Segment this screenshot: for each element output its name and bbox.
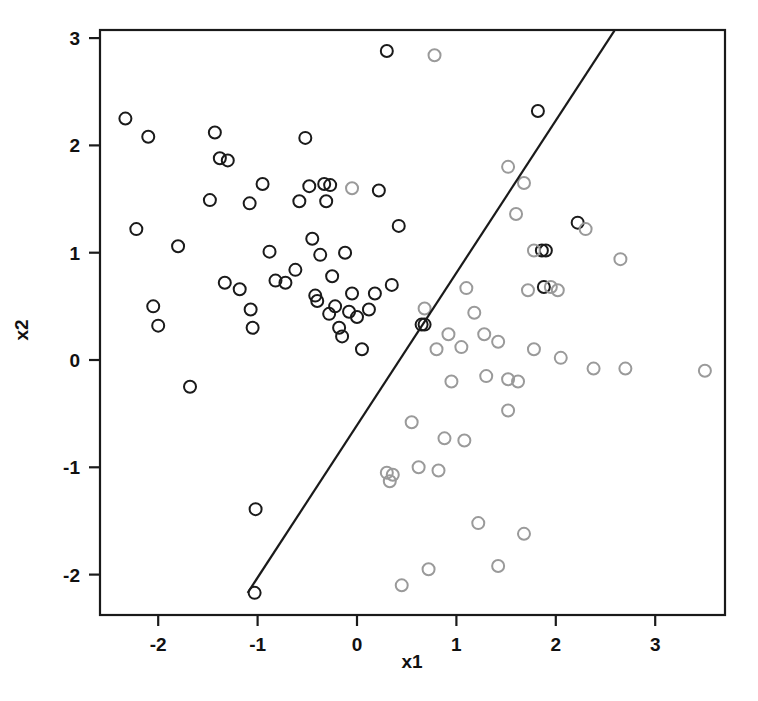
x-tick-label: 0 (352, 634, 363, 655)
chart-canvas: -2-10123-2-10123 x1 x2 (0, 0, 758, 701)
x-tick-label: 2 (551, 634, 562, 655)
y-tick-label: 3 (69, 28, 80, 49)
x-tick-label: -2 (150, 634, 167, 655)
figure-background (0, 0, 758, 701)
y-tick-label: 0 (69, 350, 80, 371)
y-axis-label: x2 (11, 319, 32, 340)
y-tick-label: -2 (63, 565, 80, 586)
scatter-plot-figure: -2-10123-2-10123 x1 x2 (0, 0, 758, 701)
y-tick-label: 1 (69, 243, 80, 264)
x-axis-label: x1 (401, 651, 423, 672)
x-tick-label: 3 (650, 634, 661, 655)
x-tick-label: 1 (451, 634, 462, 655)
y-tick-label: 2 (69, 135, 80, 156)
x-tick-label: -1 (249, 634, 266, 655)
y-tick-label: -1 (63, 457, 80, 478)
